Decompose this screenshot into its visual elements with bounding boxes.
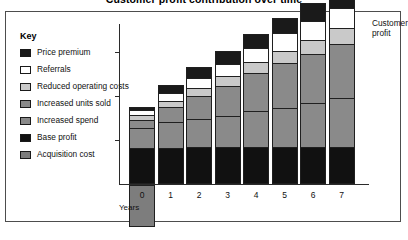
bar-segment (330, 29, 354, 45)
bar-segment (301, 22, 325, 41)
bar-segment (216, 77, 240, 86)
x-axis-tick-label: 2 (186, 190, 212, 200)
bar-segment (187, 89, 211, 97)
bar-segment (244, 74, 268, 112)
bar-segment (330, 148, 354, 183)
legend-swatch (20, 134, 31, 142)
bar-segment (130, 129, 154, 149)
figure-root: Customer profit contribution over time K… (0, 0, 408, 240)
bar-segment (330, 9, 354, 30)
legend-item-label: Referrals (37, 65, 71, 73)
bar-segment (301, 55, 325, 104)
x-axis-tick-label: 0 (129, 190, 155, 200)
legend-item-label: Acquisition cost (37, 150, 95, 158)
customer-profit-annotation-line2: profit (372, 28, 406, 38)
bar-year-1 (158, 85, 184, 184)
bar-year-6 (300, 3, 326, 184)
bar-segment (301, 148, 325, 183)
bar-segment (187, 148, 211, 183)
legend-swatch (20, 117, 31, 125)
bar-segment (301, 41, 325, 55)
bar-segment (273, 64, 297, 108)
customer-profit-annotation: Customer profit (372, 18, 406, 38)
bar-segment (159, 94, 183, 102)
legend-swatch (20, 66, 31, 74)
legend-item-label: Base profit (37, 133, 77, 141)
bar-segment (159, 123, 183, 148)
x-axis-label: Years (119, 203, 139, 212)
bar-segment (273, 34, 297, 51)
bar-segment (216, 65, 240, 78)
bar-segment (273, 109, 297, 149)
bar-segment (330, 0, 354, 9)
x-axis-tick-label: 5 (272, 190, 298, 200)
bar-segment (216, 52, 240, 65)
bar-segment (187, 79, 211, 88)
bar-segment (187, 68, 211, 79)
x-axis-tick-label: 3 (215, 190, 241, 200)
bar-year-3 (215, 51, 241, 184)
x-axis-tick-label: 4 (243, 190, 269, 200)
bar-group (119, 24, 369, 184)
bar-segment (216, 87, 240, 117)
bar-segment (244, 112, 268, 148)
bar-segment (244, 35, 268, 49)
bar-segment (301, 104, 325, 148)
bar-segment (159, 149, 183, 183)
plot-area: 01234567 Years (119, 24, 369, 190)
bar-segment (159, 86, 183, 94)
bar-year-7 (329, 0, 355, 184)
legend-swatch (20, 83, 31, 91)
legend-swatch (20, 49, 31, 57)
bar-segment (244, 49, 268, 63)
bar-segment (244, 148, 268, 183)
bar-segment (273, 52, 297, 65)
bar-year-2 (186, 67, 212, 184)
x-axis-tick-label: 6 (300, 190, 326, 200)
bar-segment (273, 148, 297, 183)
customer-profit-annotation-line1: Customer (372, 18, 406, 28)
bar-segment (187, 120, 211, 148)
x-axis-tick-label: 7 (329, 190, 355, 200)
bar-year-4 (243, 34, 269, 184)
bar-year-0 (129, 107, 155, 184)
bar-year-5 (272, 18, 298, 184)
bar-segment (301, 4, 325, 21)
x-axis (119, 184, 369, 185)
legend-item-label: Increased spend (37, 116, 98, 124)
bar-segment (330, 99, 354, 148)
bar-segment (244, 63, 268, 74)
bar-segment (216, 148, 240, 183)
x-axis-tick-label: 1 (158, 190, 184, 200)
legend-item-label: Reduced operating costs (37, 82, 129, 90)
x-axis-tick-labels: 01234567 (119, 190, 369, 204)
bar-segment (216, 117, 240, 149)
bar-segment (187, 97, 211, 121)
legend-swatch (20, 151, 31, 159)
bar-segment (330, 45, 354, 99)
bar-segment (130, 149, 154, 183)
legend-swatch (20, 100, 31, 108)
bar-segment (273, 19, 297, 35)
legend-item-label: Price premium (37, 48, 90, 56)
bar-segment (159, 108, 183, 124)
legend-heading: Key (20, 31, 37, 41)
bar-segment (130, 121, 154, 129)
legend-item-label: Increased units sold (37, 99, 111, 107)
